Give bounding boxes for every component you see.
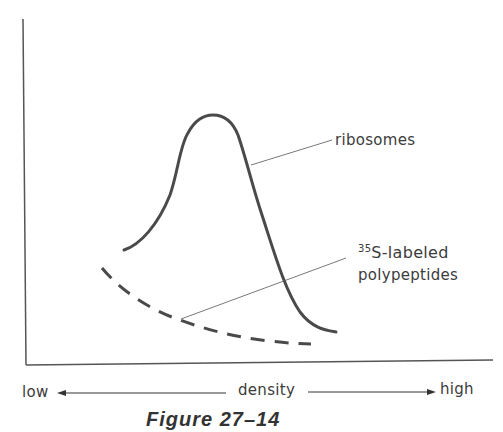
low-arrow-head — [57, 390, 66, 396]
figure-caption: Figure 27–14 — [146, 408, 280, 431]
polypeptides-label-line2: polypeptides — [358, 264, 458, 286]
high-arrow-head — [427, 389, 436, 395]
x-axis — [26, 360, 493, 365]
figure-27-14: ribosomes 35S-labeled polypeptides low d… — [0, 0, 503, 432]
x-axis-high-label: high — [440, 380, 474, 398]
x-axis-low-label: low — [22, 383, 49, 401]
isotope-superscript: 35 — [358, 243, 371, 254]
ribosomes-label: ribosomes — [335, 131, 415, 149]
chart-canvas — [0, 0, 503, 432]
polypeptides-leader-line — [181, 258, 346, 319]
ribosomes-leader-line — [251, 140, 332, 165]
y-axis — [23, 19, 26, 365]
polypeptides-label-line1: S-labeled — [371, 243, 448, 262]
ribosomes-curve — [124, 115, 336, 332]
polypeptides-label: 35S-labeled polypeptides — [358, 238, 458, 286]
polypeptides-curve — [102, 268, 311, 344]
x-axis-title: density — [238, 381, 295, 399]
